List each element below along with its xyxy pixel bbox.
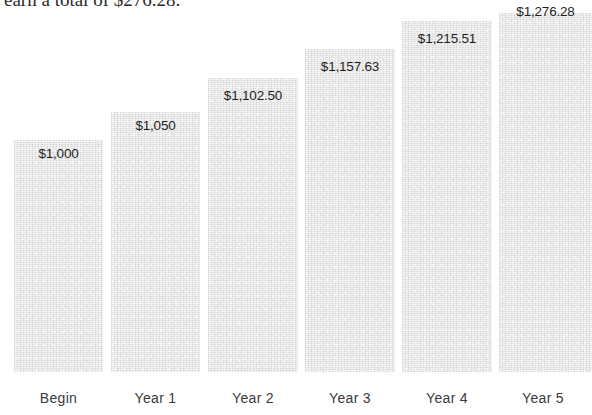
- bar-begin: [14, 140, 103, 372]
- bar-value-year-5: $1,276.28: [499, 4, 592, 19]
- bar-year-1: [111, 112, 200, 372]
- axis-label-year-1: Year 1: [111, 390, 200, 406]
- axis-label-year-5: Year 5: [499, 390, 587, 406]
- bar-group-year-1: $1,050: [111, 0, 200, 372]
- axis-label-year-3: Year 3: [305, 390, 395, 406]
- bar-chart: earn a total of $276.28. $1,000 $1,050 $…: [0, 0, 592, 415]
- axis-label-year-2: Year 2: [208, 390, 298, 406]
- bar-group-year-4: $1,215.51: [402, 0, 492, 372]
- bar-group-year-2: $1,102.50: [208, 0, 298, 372]
- bar-year-2: [208, 78, 298, 372]
- axis-label-year-4: Year 4: [402, 390, 492, 406]
- bar-value-begin: $1,000: [14, 146, 103, 161]
- bar-value-year-2: $1,102.50: [208, 88, 298, 103]
- bar-year-3: [305, 49, 395, 372]
- axis-label-begin: Begin: [14, 390, 103, 406]
- bar-group-begin: $1,000: [14, 0, 103, 372]
- bar-value-year-3: $1,157.63: [305, 59, 395, 74]
- plot-area: $1,000 $1,050 $1,102.50 $1,157.63 $1,215…: [0, 0, 592, 372]
- bar-group-year-3: $1,157.63: [305, 0, 395, 372]
- bar-group-year-5: $1,276.28: [499, 0, 592, 372]
- bar-year-4: [402, 21, 492, 372]
- bar-year-5: [499, 13, 592, 372]
- bar-value-year-4: $1,215.51: [402, 31, 492, 46]
- category-axis: Begin Year 1 Year 2 Year 3 Year 4 Year 5: [0, 372, 592, 415]
- bar-value-year-1: $1,050: [111, 118, 200, 133]
